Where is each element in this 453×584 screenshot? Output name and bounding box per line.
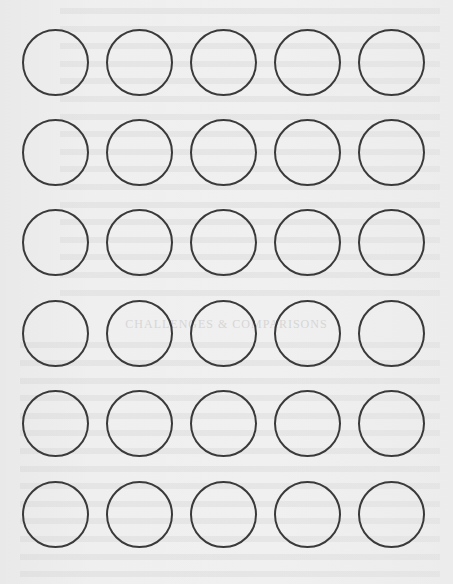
circle-label-r5-c5 [358, 390, 425, 457]
circle-label-r1-c2 [106, 29, 173, 96]
label-sheet-page: CHALLENGES & COMPARISONS [0, 0, 453, 584]
circle-label-r4-c5 [358, 300, 425, 367]
circle-label-r6-c1 [22, 481, 89, 548]
bleed-through-line [60, 114, 440, 120]
circle-label-r3-c2 [106, 209, 173, 276]
circle-label-r6-c4 [274, 481, 341, 548]
bleed-through-line [60, 290, 440, 296]
circle-label-r2-c5 [358, 119, 425, 186]
circle-label-r5-c3 [190, 390, 257, 457]
bleed-through-line [60, 202, 440, 208]
circle-label-r6-c2 [106, 481, 173, 548]
circle-label-r1-c5 [358, 29, 425, 96]
bleed-through-line [60, 8, 440, 14]
bleed-through-line [20, 554, 440, 560]
circle-label-r3-c1 [22, 209, 89, 276]
bleed-through-line [20, 466, 440, 472]
circle-label-r5-c1 [22, 390, 89, 457]
circle-label-r3-c3 [190, 209, 257, 276]
circle-label-r1-c3 [190, 29, 257, 96]
circle-label-r2-c2 [106, 119, 173, 186]
bleed-through-line [20, 571, 440, 577]
circle-label-r6-c3 [190, 481, 257, 548]
bleed-through-line [20, 378, 440, 384]
circle-label-r4-c2 [106, 300, 173, 367]
circle-label-r4-c1 [22, 300, 89, 367]
circle-label-r4-c4 [274, 300, 341, 367]
bleed-through-line [60, 96, 440, 102]
circle-label-r2-c4 [274, 119, 341, 186]
circle-label-r5-c4 [274, 390, 341, 457]
circle-label-r1-c4 [274, 29, 341, 96]
circle-label-r2-c3 [190, 119, 257, 186]
circle-label-r2-c1 [22, 119, 89, 186]
circle-label-r6-c5 [358, 481, 425, 548]
circle-label-r5-c2 [106, 390, 173, 457]
circle-label-r1-c1 [22, 29, 89, 96]
circle-label-r4-c3 [190, 300, 257, 367]
